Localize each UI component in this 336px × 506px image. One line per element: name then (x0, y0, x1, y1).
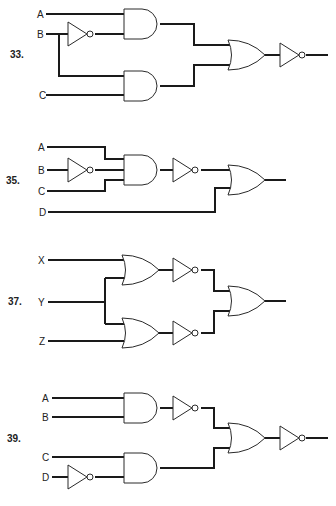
not-gate-d (68, 465, 93, 489)
not-gate-output (280, 43, 305, 67)
or-gate-1 (122, 255, 159, 285)
and-gate-1 (124, 393, 157, 423)
input-label-a: A (42, 393, 49, 404)
not-gate-output (280, 426, 305, 450)
problem-number: 39. (7, 433, 21, 444)
and-gate-3input (124, 155, 157, 185)
and-gate-1 (124, 9, 157, 39)
wire-a (47, 147, 124, 159)
wire-not2-or (201, 311, 231, 333)
input-label-d: D (42, 472, 49, 483)
input-label-d: D (39, 207, 46, 218)
circuit-37: 37. X Y Z (8, 255, 286, 348)
input-label-c: C (42, 452, 49, 463)
input-label-c: C (39, 90, 46, 101)
wire-and2-or (160, 448, 231, 468)
or-gate (228, 40, 265, 70)
input-label-b: B (38, 165, 45, 176)
wire-and2-or (160, 65, 230, 86)
not-gate-and (173, 158, 198, 182)
logic-circuits-diagram: 33. A B C 35. A B C D (0, 0, 336, 506)
input-label-a: A (38, 142, 45, 153)
not-gate-b (68, 22, 93, 46)
input-label-x: X (38, 255, 45, 266)
circuit-35: 35. A B C D (6, 142, 286, 218)
input-label-a: A (37, 9, 44, 20)
not-gate-b (68, 158, 93, 182)
or-gate-final (228, 286, 265, 316)
circuit-39: 39. A B C D (7, 393, 328, 489)
or-gate-2 (122, 318, 159, 348)
problem-number: 35. (6, 175, 20, 186)
circuit-33: 33. A B C (10, 9, 328, 101)
not-gate-1 (173, 258, 198, 282)
or-gate (228, 423, 265, 453)
problem-number: 37. (8, 296, 22, 307)
or-gate (228, 165, 265, 195)
input-label-z: Z (39, 336, 45, 347)
input-label-b: B (42, 412, 49, 423)
wire-not-or (201, 408, 231, 428)
not-gate-and1 (173, 396, 198, 420)
input-label-b: B (37, 29, 44, 40)
wire-not1-or (201, 270, 231, 291)
wire-c (47, 180, 124, 191)
wire-and1-or (160, 24, 230, 45)
input-label-y: Y (38, 297, 45, 308)
and-gate-2 (124, 453, 157, 483)
not-gate-2 (173, 321, 198, 345)
problem-number: 33. (10, 49, 24, 60)
input-label-c: C (38, 186, 45, 197)
and-gate-2 (124, 71, 157, 101)
